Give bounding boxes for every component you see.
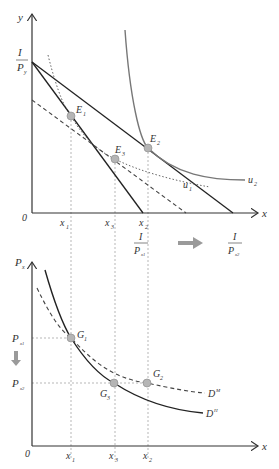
horizontal-guides: [32, 338, 147, 383]
svg-text:2: 2: [145, 224, 148, 230]
x-tick-labels-bottom: x 1 x 3 x 2: [65, 450, 152, 463]
x-axis-label: x: [261, 207, 267, 219]
x-intercept-before-label: I P x1: [133, 231, 148, 257]
svg-text:x: x: [21, 264, 25, 270]
svg-text:P: P: [227, 245, 234, 256]
svg-text:2: 2: [157, 140, 160, 146]
x-tick-labels: x 1 x 3 x 2: [59, 217, 148, 230]
svg-text:3: 3: [110, 224, 114, 230]
price-axis-label: P x: [14, 256, 25, 270]
svg-text:I: I: [138, 231, 143, 242]
svg-text:3: 3: [121, 151, 125, 157]
svg-text:I: I: [17, 46, 23, 58]
svg-text:x: x: [59, 217, 65, 228]
svg-text:2: 2: [149, 457, 152, 463]
svg-text:H: H: [213, 408, 218, 413]
price-decrease-arrow: [11, 351, 21, 366]
svg-text:P: P: [11, 377, 19, 389]
svg-text:1: 1: [72, 457, 75, 463]
svg-text:1: 1: [84, 336, 87, 342]
compensated-budget-line: [32, 100, 186, 213]
svg-text:x: x: [104, 217, 110, 228]
demand-curve-labels: D M D H: [205, 388, 221, 419]
point-e3: [111, 155, 119, 163]
shift-right-arrow: [178, 237, 203, 249]
svg-text:u: u: [183, 179, 188, 190]
svg-text:x: x: [65, 450, 71, 461]
svg-text:1: 1: [189, 186, 192, 192]
intercept-y-label: I P y: [16, 46, 28, 75]
svg-text:2: 2: [160, 375, 163, 381]
svg-text:3: 3: [106, 395, 110, 401]
svg-text:x: x: [138, 217, 144, 228]
svg-text:P: P: [133, 245, 140, 256]
bottom-panel: P x x 0 P x1 P x2 x 1 x 3 x 2 G 1 G 3: [11, 256, 267, 463]
svg-text:x2: x2: [234, 252, 240, 257]
svg-text:x: x: [142, 450, 148, 461]
svg-text:E: E: [114, 144, 121, 155]
x-intercept-after-label: I P x2: [227, 231, 242, 257]
svg-text:P: P: [11, 332, 19, 344]
svg-text:1: 1: [66, 224, 69, 230]
point-e2: [144, 144, 152, 152]
svg-text:M: M: [215, 388, 221, 393]
svg-text:D: D: [207, 388, 216, 399]
svg-text:P: P: [16, 61, 24, 73]
svg-text:D: D: [205, 408, 214, 419]
point-g2: [143, 379, 151, 387]
svg-text:x2: x2: [19, 386, 25, 391]
svg-text:x: x: [108, 450, 114, 461]
y-axis-label: y: [17, 11, 23, 23]
svg-text:u: u: [248, 174, 253, 185]
svg-text:1: 1: [83, 111, 86, 117]
budget-line-original: [32, 62, 143, 213]
svg-text:I: I: [232, 231, 237, 242]
svg-text:x1: x1: [140, 252, 145, 257]
budget-line-new: [32, 62, 233, 213]
quantity-axis-label: x: [261, 440, 267, 452]
point-g1: [67, 334, 75, 342]
marshallian-demand-curve: [37, 288, 205, 393]
svg-text:E: E: [75, 104, 82, 115]
point-e1: [67, 112, 75, 120]
svg-text:y: y: [23, 69, 27, 75]
income-substitution-diagram: y x 0 I P y x 1 x 3 x 2 I P x1 I P x2: [0, 0, 279, 469]
origin-label-bottom: 0: [25, 448, 30, 459]
point-labels-bottom: G 1 G 3 G 2: [77, 329, 163, 401]
origin-label: 0: [22, 212, 27, 223]
point-g3: [110, 379, 118, 387]
svg-text:2: 2: [254, 181, 257, 187]
svg-text:3: 3: [114, 457, 118, 463]
indifference-curve-u2: [125, 30, 245, 180]
svg-text:E: E: [149, 133, 156, 144]
svg-text:P: P: [14, 256, 22, 268]
svg-text:x1: x1: [19, 341, 24, 346]
top-panel: y x 0 I P y x 1 x 3 x 2 I P x1 I P x2: [16, 11, 267, 460]
